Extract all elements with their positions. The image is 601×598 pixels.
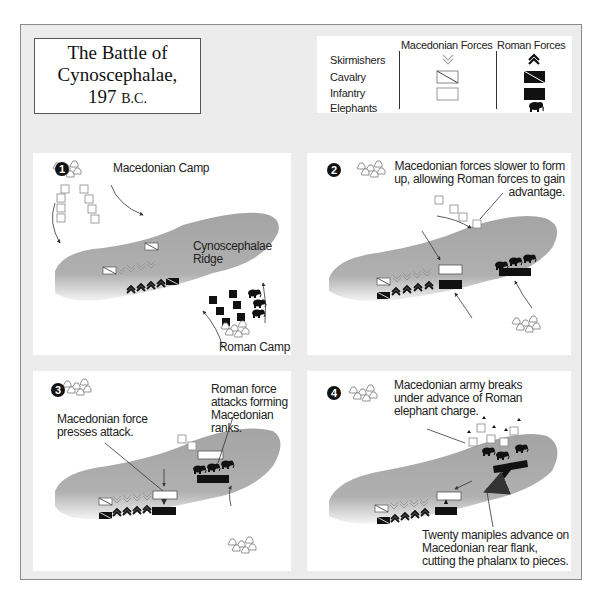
- ridge-label-line2: Ridge: [193, 253, 223, 266]
- cavalry-roman-icon: [524, 71, 545, 83]
- macedonian-camp-label: Macedonian Camp: [113, 162, 209, 175]
- panel-2: 2 Macedonian forces slower to form up, a…: [307, 153, 571, 355]
- title-line-2: Cynoscephalae,: [35, 64, 200, 86]
- cavalry-macedonian-icon: [437, 71, 458, 83]
- title-line-1: The Battle of: [35, 42, 200, 64]
- roman-cavalry-icon: [166, 278, 179, 285]
- note-line: cutting the phalanx to pieces.: [422, 555, 569, 568]
- panel-3-right-note: Roman force attacks forming Macedonian r…: [211, 383, 291, 435]
- panel-4: 4 Macedonian army breaks under advance o…: [307, 371, 571, 571]
- roman-camp-icon: [221, 321, 249, 337]
- panel-3: 3 Macedonian force presses attack. Roman…: [33, 371, 291, 571]
- panel-4-top-note: Macedonian army breaks under advance of …: [394, 379, 522, 418]
- roman-maniples: [209, 290, 245, 326]
- roman-infantry: [499, 268, 531, 276]
- arrow-icon: [455, 293, 472, 318]
- elephant-roman-icon: [529, 102, 543, 112]
- panel-1-map: [33, 153, 291, 355]
- roman-camp-icon: [228, 537, 256, 553]
- panel-4-bottom-note: Twenty maniples advance on Macedonian re…: [422, 529, 569, 568]
- macedonian-cavalry-icon: [103, 267, 116, 274]
- step-number-4: 4: [327, 386, 341, 400]
- arrow-icon: [515, 281, 532, 308]
- elephant-icon: [248, 289, 261, 298]
- title-year: 197: [88, 86, 117, 107]
- roman-camp-label: Roman Camp: [219, 341, 290, 354]
- infantry-roman-icon: [524, 88, 545, 100]
- infantry-macedonian-icon: [437, 88, 458, 100]
- macedonian-camp-icon: [63, 379, 91, 395]
- leader-line: [427, 429, 465, 443]
- legend: Macedonian Forces Roman Forces Skirmishe…: [317, 36, 572, 113]
- elephant-icon: [253, 299, 266, 308]
- panel-1: 1 Macedonian Camp Cynoscephalae Ridge Ro…: [33, 153, 291, 355]
- note-line: presses attack.: [57, 426, 148, 439]
- macedonian-phalanx: [439, 265, 462, 274]
- arrow-icon: [111, 185, 143, 215]
- step-number-2: 2: [327, 163, 341, 177]
- panel-2-note: Macedonian forces slower to form up, all…: [365, 160, 565, 199]
- note-line: elephant charge.: [394, 405, 522, 418]
- roman-infantry: [439, 280, 462, 289]
- macedonian-columns: [57, 185, 99, 223]
- ridge-shape: [55, 213, 279, 301]
- panel-3-left-note: Macedonian force presses attack.: [57, 413, 148, 439]
- note-line: Macedonian ranks.: [211, 409, 291, 435]
- legend-symbols: [317, 36, 572, 113]
- roman-camp-icon: [512, 316, 540, 332]
- macedonian-cavalry-icon: [145, 243, 158, 250]
- title-box: The Battle of Cynoscephalae, 197 B.C.: [34, 38, 201, 114]
- elephant-icon: [252, 309, 265, 318]
- ridge-shape: [55, 429, 281, 520]
- skirmisher-roman-icon: [529, 55, 539, 64]
- note-line: advantage.: [365, 186, 565, 199]
- step-number-3: 3: [51, 383, 65, 397]
- title-era: B.C.: [121, 91, 147, 106]
- step-number-1: 1: [55, 162, 69, 176]
- title-line-3: 197 B.C.: [35, 86, 200, 110]
- skirmisher-macedonian-icon: [443, 55, 453, 64]
- macedonian-camp-icon: [349, 385, 377, 401]
